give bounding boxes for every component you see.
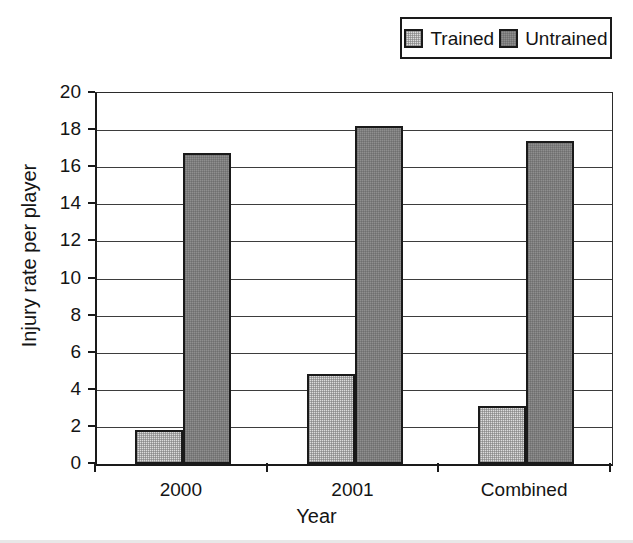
legend-label-trained: Trained [430,29,494,48]
chart-legend: Trained Untrained [400,17,612,59]
y-tick-label: 14 [47,193,81,212]
bar-combined-trained [478,406,526,464]
legend-entry-untrained: Untrained [499,29,607,48]
bar-2000-trained [135,430,183,464]
bar-2000-untrained [183,153,231,464]
x-tick-mark [609,463,611,472]
bar-combined-untrained [526,141,574,464]
legend-swatch-untrained [499,29,518,48]
y-tick-label: 18 [47,119,81,138]
y-tick-label: 4 [47,379,81,398]
x-tick-mark [266,463,268,472]
x-tick-label-2000: 2000 [95,480,267,499]
x-axis-title: Year [0,505,633,528]
bar-group-container [97,93,612,464]
y-tick-label: 12 [47,230,81,249]
y-tick-mark [88,314,95,316]
y-tick-mark [88,277,95,279]
legend-label-untrained: Untrained [525,29,607,48]
y-tick-label: 20 [47,82,81,101]
y-tick-label: 6 [47,342,81,361]
x-tick-label-2001: 2001 [267,480,439,499]
x-tick-label-combined: Combined [438,480,610,499]
y-tick-label: 10 [47,268,81,287]
y-tick-mark [88,128,95,130]
y-tick-label: 2 [47,416,81,435]
x-tick-mark [94,463,96,472]
legend-swatch-trained [404,29,423,48]
y-tick-mark [88,351,95,353]
bar-2001-untrained [355,126,403,464]
y-tick-label: 8 [47,305,81,324]
y-tick-mark [88,425,95,427]
legend-entry-trained: Trained [404,29,494,48]
plot-area [95,92,613,466]
y-tick-mark [88,239,95,241]
bar-chart-figure: Trained Untrained 0246810121416182020002… [0,0,633,543]
y-tick-label: 16 [47,156,81,175]
y-tick-label: 0 [47,453,81,472]
y-tick-mark [88,165,95,167]
x-tick-mark [437,463,439,472]
bar-2001-trained [307,374,355,464]
y-tick-mark [88,388,95,390]
y-axis-title: Injury rate per player [18,126,41,386]
y-tick-mark [88,91,95,93]
y-tick-mark [88,202,95,204]
